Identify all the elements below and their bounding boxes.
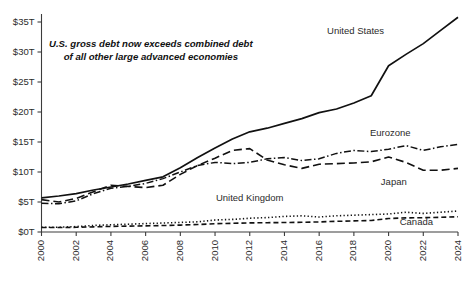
y-tick-label: $35T xyxy=(13,16,35,27)
x-tick-label: 2008 xyxy=(174,240,185,261)
x-tick-label: 2024 xyxy=(452,240,463,261)
annotations: U.S. gross debt now exceeds combined deb… xyxy=(49,38,253,62)
y-tick-label: $5T xyxy=(18,196,35,207)
series-label-united-kingdom: United Kingdom xyxy=(216,192,284,203)
headline-annotation-line1: U.S. gross debt now exceeds combined deb… xyxy=(49,38,253,49)
y-tick-label: $10T xyxy=(13,166,35,177)
x-axis-ticks: 2000200220042006200820102012201420162018… xyxy=(35,232,463,261)
y-tick-label: $20T xyxy=(13,106,35,117)
series-line-united-kingdom xyxy=(42,211,459,227)
y-tick-label: $0T xyxy=(18,226,35,237)
series-label-japan: Japan xyxy=(381,176,407,187)
x-tick-label: 2022 xyxy=(417,240,428,261)
x-tick-label: 2000 xyxy=(35,240,46,261)
series-label-united-states: United States xyxy=(327,25,384,36)
x-tick-label: 2014 xyxy=(278,240,289,261)
x-tick-label: 2012 xyxy=(243,240,254,261)
x-tick-label: 2006 xyxy=(139,240,150,261)
x-tick-label: 2004 xyxy=(104,240,115,261)
series-label-canada: Canada xyxy=(400,216,434,227)
series-label-eurozone: Eurozone xyxy=(370,127,411,138)
series-line-canada xyxy=(42,217,459,228)
x-tick-label: 2020 xyxy=(382,240,393,261)
y-axis-group: $0T$5T$10T$15T$20T$25T$30T$35T xyxy=(13,14,42,237)
series-labels: United StatesEurozoneJapanUnited Kingdom… xyxy=(216,25,434,227)
y-tick-label: $30T xyxy=(13,46,35,57)
x-tick-label: 2002 xyxy=(70,240,81,261)
headline-annotation-line2: of all other large advanced economies xyxy=(64,51,238,62)
chart-canvas: $0T$5T$10T$15T$20T$25T$30T$35T 200020022… xyxy=(0,0,466,281)
y-tick-label: $15T xyxy=(13,136,35,147)
x-axis-group: 2000200220042006200820102012201420162018… xyxy=(35,232,463,261)
x-tick-label: 2018 xyxy=(347,240,358,261)
debt-line-chart: $0T$5T$10T$15T$20T$25T$30T$35T 200020022… xyxy=(0,0,466,281)
y-tick-label: $25T xyxy=(13,76,35,87)
x-tick-label: 2016 xyxy=(313,240,324,261)
x-tick-label: 2010 xyxy=(209,240,220,261)
y-axis-ticks: $0T$5T$10T$15T$20T$25T$30T$35T xyxy=(13,16,42,237)
